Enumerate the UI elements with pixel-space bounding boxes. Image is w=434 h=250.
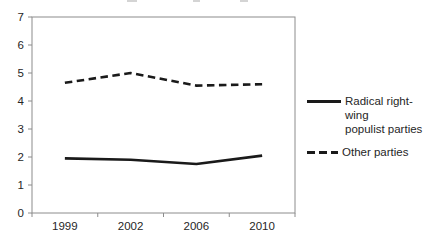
legend: Radical right-wing populist parties Othe…	[307, 94, 432, 159]
series-line-radical-right-wing-populist-parties	[65, 156, 262, 164]
legend-swatch-solid-line-icon	[307, 100, 341, 103]
y-axis-tick-label: 2	[18, 151, 24, 163]
y-axis-tick-label: 0	[18, 207, 24, 219]
legend-item-other-parties: Other parties	[307, 145, 432, 159]
y-axis-tick-label: 3	[18, 123, 24, 135]
x-axis-tick-label: 2010	[249, 220, 275, 232]
y-axis-tick-label: 6	[18, 39, 24, 51]
y-axis-tick-label: 7	[18, 11, 24, 23]
y-axis-tick-label: 4	[18, 95, 25, 107]
chart-screenshot: 012345671999200220062010 Radical right-w…	[0, 0, 434, 250]
legend-label: Radical right-wing populist parties	[345, 94, 432, 136]
x-axis-tick-label: 2006	[184, 220, 210, 232]
series-line-other-parties	[65, 73, 262, 86]
plot-area-border	[32, 17, 295, 213]
y-axis-tick-label: 5	[18, 67, 24, 79]
legend-item-radical-right: Radical right-wing populist parties	[307, 94, 432, 136]
y-axis-tick-label: 1	[18, 179, 24, 191]
legend-label: Other parties	[342, 145, 408, 159]
legend-swatch-dashed-line-icon	[307, 151, 338, 154]
legend-label-line: Radical right-wing	[345, 94, 432, 122]
legend-label-line: populist parties	[345, 122, 432, 136]
x-axis-tick-label: 1999	[52, 220, 78, 232]
legend-label-line: Other parties	[342, 145, 408, 159]
x-axis-tick-label: 2002	[118, 220, 144, 232]
